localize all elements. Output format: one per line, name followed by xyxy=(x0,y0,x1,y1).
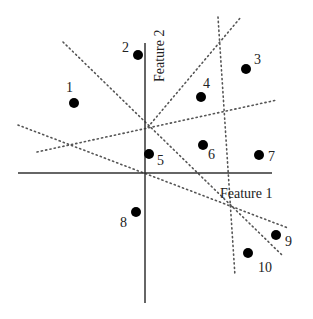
data-point-9 xyxy=(271,230,281,240)
data-point-5 xyxy=(144,149,154,159)
data-point-label-2: 2 xyxy=(122,40,129,55)
data-point-label-5: 5 xyxy=(157,153,164,168)
data-point-1 xyxy=(69,98,79,108)
data-point-7 xyxy=(254,150,264,160)
data-point-2 xyxy=(133,50,143,60)
diagram-svg: Feature 1 Feature 2 12345678910 xyxy=(0,0,313,319)
dotted-boundary-line xyxy=(218,17,235,276)
data-point-label-1: 1 xyxy=(66,80,73,95)
data-point-3 xyxy=(241,64,251,74)
data-point-label-10: 10 xyxy=(258,260,272,275)
data-point-6 xyxy=(198,140,208,150)
data-point-10 xyxy=(243,248,253,258)
data-point-label-3: 3 xyxy=(254,52,261,67)
data-point-4 xyxy=(196,92,206,102)
dotted-boundary-line xyxy=(18,125,288,228)
data-point-8 xyxy=(131,207,141,217)
data-point-label-4: 4 xyxy=(203,76,210,91)
data-point-label-6: 6 xyxy=(208,147,215,162)
x-axis-label: Feature 1 xyxy=(220,186,272,201)
feature-space-diagram: Feature 1 Feature 2 12345678910 xyxy=(0,0,313,319)
data-points: 12345678910 xyxy=(66,40,292,275)
dotted-boundary-line xyxy=(63,42,283,256)
data-point-label-7: 7 xyxy=(268,149,275,164)
y-axis-label: Feature 2 xyxy=(152,30,167,82)
data-point-label-9: 9 xyxy=(285,234,292,249)
data-point-label-8: 8 xyxy=(120,215,127,230)
